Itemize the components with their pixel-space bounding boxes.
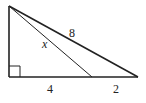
hypotenuse-line: [9, 6, 138, 77]
base-right-label: 2: [113, 82, 119, 96]
triangle-diagram: 8 x 4 2: [0, 0, 146, 103]
base-left-label: 4: [47, 82, 53, 96]
hypotenuse-label: 8: [69, 26, 75, 40]
inner-segment-label: x: [41, 37, 48, 51]
inner-segment-line: [9, 6, 92, 77]
right-angle-marker: [9, 66, 20, 77]
